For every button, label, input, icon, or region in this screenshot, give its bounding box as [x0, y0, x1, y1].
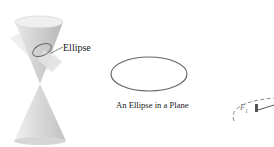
upper-nappe — [15, 22, 63, 84]
ellipse-label: Ellipse — [63, 42, 91, 53]
double-cone — [10, 16, 66, 145]
focus-pin — [255, 104, 258, 112]
lower-nappe-base — [14, 137, 66, 145]
lower-nappe — [14, 84, 66, 141]
string-line — [258, 105, 274, 110]
focus-subscript: 1 — [245, 108, 248, 114]
upper-nappe-rim — [15, 16, 63, 28]
plane-ellipse-caption: An Ellipse in a Plane — [116, 100, 189, 110]
focus-label: F1 — [240, 103, 248, 114]
conic-sections-figure — [0, 0, 274, 147]
plane-ellipse — [111, 57, 187, 91]
